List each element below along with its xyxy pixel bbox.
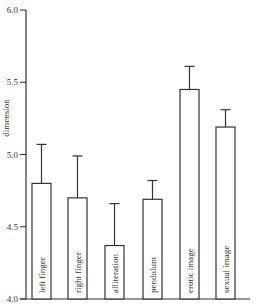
bar-label: erotic image (185, 248, 195, 293)
bar-label: right finger (73, 252, 83, 293)
bar-label: pendulum (148, 257, 158, 293)
bar-label: left finger (37, 257, 47, 293)
bar-chart: 4.04.55.05.56.0dimension left fingerrigh… (0, 0, 259, 306)
y-tick-label: 5.5 (7, 77, 19, 87)
y-tick-label: 4.0 (7, 294, 19, 304)
y-tick-label: 6.0 (7, 5, 19, 15)
bar-group: alliteration (105, 204, 124, 299)
bar-group: sexual image (216, 110, 235, 299)
y-axis-title: dimension (1, 99, 11, 137)
y-tick-label: 4.5 (7, 222, 19, 232)
bar-label: sexual image (221, 246, 231, 293)
y-tick-label: 5.0 (7, 150, 19, 160)
bar-group: right finger (68, 156, 87, 299)
bar-group: pendulum (143, 181, 162, 299)
bar-group: erotic image (180, 66, 199, 299)
bar-label: alliteration (110, 254, 120, 293)
bar-group: left finger (32, 144, 51, 299)
bars: left fingerright fingeralliterationpendu… (32, 66, 235, 299)
